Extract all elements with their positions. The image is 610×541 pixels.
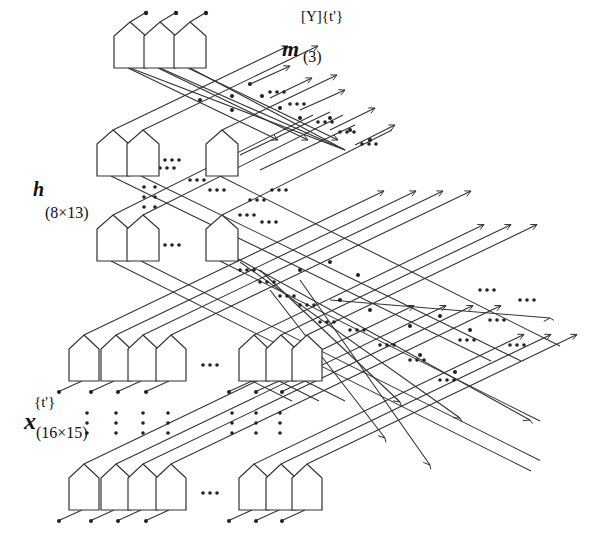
- unit-x-top-1: [69, 335, 99, 381]
- network-diagram: [0, 0, 610, 541]
- label-x-symbol: x: [24, 408, 36, 435]
- unit-h-top-2: [127, 130, 159, 176]
- label-x-superscript: {t'}: [34, 394, 55, 411]
- unit-x-top-7: [292, 335, 322, 381]
- unit-x-top-4: [156, 335, 186, 381]
- unit-x-bottom-5: [239, 464, 269, 510]
- label-m-superscript: [Y]{t'}: [301, 8, 343, 25]
- label-x-subscript: (16×15): [36, 424, 88, 442]
- unit-x-top-2: [101, 335, 131, 381]
- unit-h-top-1: [97, 130, 129, 176]
- unit-h-top-3: [206, 130, 238, 176]
- unit-h-bottom-3: [206, 215, 238, 261]
- unit-x-bottom-1: [69, 464, 99, 510]
- unit-x-bottom-2: [101, 464, 131, 510]
- unit-m-3: [174, 22, 206, 68]
- unit-x-bottom-4: [156, 464, 186, 510]
- unit-x-bottom-7: [292, 464, 322, 510]
- label-h-subscript: (8×13): [45, 204, 89, 222]
- unit-x-bottom-3: [128, 464, 158, 510]
- unit-m-1: [114, 22, 146, 68]
- label-m-symbol: m: [282, 36, 299, 62]
- unit-m-2: [144, 22, 176, 68]
- label-h-symbol: h: [33, 178, 44, 201]
- unit-x-top-5: [239, 335, 269, 381]
- unit-h-bottom-2: [127, 215, 159, 261]
- label-m-subscript: (3): [303, 48, 322, 66]
- unit-h-bottom-1: [97, 215, 129, 261]
- unit-x-top-3: [128, 335, 158, 381]
